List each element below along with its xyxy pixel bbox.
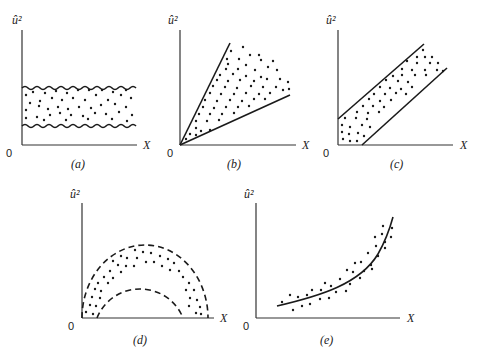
- panel-caption: (e): [320, 333, 333, 347]
- origin-label: 0: [243, 320, 249, 332]
- scatter-points: [281, 225, 393, 311]
- y-axis-label: û²: [326, 13, 336, 27]
- panel-e: û² X 0 (e): [243, 187, 415, 347]
- y-axis-label: û²: [168, 13, 178, 27]
- scatter-points: [341, 49, 444, 142]
- upper-wavy-bound: [22, 87, 136, 90]
- panel-c: û² X 0 (c): [323, 13, 468, 171]
- scatter-points: [25, 89, 133, 122]
- origin-label: 0: [6, 147, 12, 159]
- origin-label: 0: [323, 147, 329, 159]
- origin-label: 0: [167, 147, 173, 159]
- x-axis-label: X: [301, 138, 310, 152]
- upper-bound-line: [180, 43, 230, 145]
- scatter-points: [185, 46, 290, 140]
- inner-dashed-arc: [97, 289, 183, 318]
- panel-caption: (b): [227, 157, 241, 171]
- panel-a: û² X 0 (a): [6, 13, 151, 171]
- x-axis-label: X: [459, 138, 468, 152]
- heteroscedasticity-patterns-figure: û² X 0 (a): [0, 0, 478, 355]
- y-axis-label: û²: [244, 187, 254, 201]
- scatter-points: [85, 249, 202, 315]
- y-axis-label: û²: [12, 13, 22, 27]
- x-axis-label: X: [406, 311, 415, 325]
- origin-label: 0: [68, 320, 74, 332]
- panel-caption: (c): [390, 157, 403, 171]
- x-axis-label: X: [219, 311, 228, 325]
- lower-wavy-bound: [22, 125, 136, 128]
- panel-caption: (a): [71, 157, 85, 171]
- lower-bound-line: [362, 68, 447, 145]
- y-axis-label: û²: [70, 187, 80, 201]
- panel-b: û² X 0 (b): [167, 13, 310, 171]
- x-axis-label: X: [142, 138, 151, 152]
- panel-d: û² X 0 (d): [68, 187, 228, 347]
- panel-caption: (d): [133, 333, 147, 347]
- upper-bound-line: [338, 44, 424, 119]
